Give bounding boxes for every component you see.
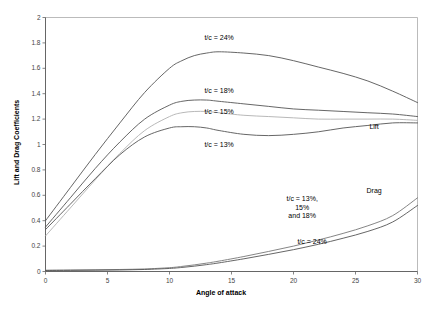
x-tick-label: 5 (96, 277, 120, 284)
y-tick-label: 0.4 (16, 217, 41, 224)
x-tick-label: 25 (344, 277, 368, 284)
x-tick-label: 30 (406, 277, 430, 284)
y-tick-label: 1.6 (16, 64, 41, 71)
y-tick-label: 0.2 (16, 242, 41, 249)
annotation-tc24-lift: t/c = 24% (193, 34, 245, 43)
annotation-tc13-lift: t/c = 13% (193, 141, 245, 150)
series-line-5 (46, 205, 418, 270)
chart-plot-area (0, 0, 442, 311)
y-tick-label: 0.6 (16, 191, 41, 198)
y-tick-label: 1.4 (16, 90, 41, 97)
y-tick-label: 2 (16, 14, 41, 21)
y-tick-label: 0 (16, 268, 41, 275)
x-tick-label: 20 (282, 277, 306, 284)
x-axis-title: Angle of attack (0, 289, 442, 296)
annotation-drag-label: Drag (348, 187, 400, 196)
y-axis-title: Lift and Drag Coefficients (13, 99, 20, 184)
series-line-3 (46, 123, 418, 230)
annotation-tc15-lift: t/c = 15% (193, 108, 245, 117)
x-tick-label: 0 (34, 277, 58, 284)
annotation-tc24-drag: t/c = 24% (286, 238, 338, 247)
series-line-4 (46, 198, 418, 270)
annotation-drag-group: t/c = 13%,15%and 18% (267, 195, 337, 221)
x-tick-label: 10 (158, 277, 182, 284)
chart-container: 00.20.40.60.811.21.41.61.82051015202530 … (0, 0, 442, 311)
annotation-tc18-lift: t/c = 18% (193, 87, 245, 96)
x-tick-label: 15 (220, 277, 244, 284)
y-tick-label: 1.8 (16, 39, 41, 46)
annotation-lift-label: Lift (348, 123, 400, 132)
